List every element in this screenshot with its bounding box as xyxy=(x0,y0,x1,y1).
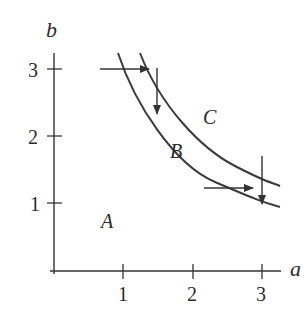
x-tick-label-1: 1 xyxy=(118,284,128,304)
lower-boundary-curve xyxy=(118,53,280,207)
y-axis-label: b xyxy=(46,19,57,41)
diagram-canvas: b a 3 2 1 1 2 3 C B A xyxy=(0,0,304,317)
y-tick-label-1: 1 xyxy=(30,194,40,214)
x-tick-label-2: 2 xyxy=(187,284,197,304)
region-label-c: C xyxy=(203,107,216,127)
y-tick-label-2: 2 xyxy=(28,127,38,147)
y-tick-label-3: 3 xyxy=(28,60,38,80)
x-axis-label: a xyxy=(290,258,301,280)
region-label-a: A xyxy=(101,211,113,231)
diagram-svg xyxy=(0,0,304,317)
region-label-b: B xyxy=(170,141,182,161)
x-tick-label-3: 3 xyxy=(256,284,266,304)
